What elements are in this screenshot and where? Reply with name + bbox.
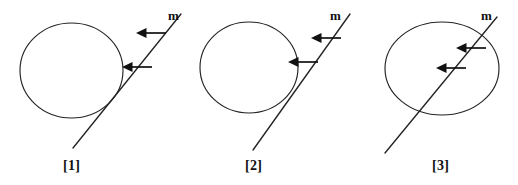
arrow-3-upper xyxy=(456,43,486,53)
line-label-m-1: m xyxy=(168,8,179,23)
figure-2-group: m [2] xyxy=(200,8,350,173)
figure-1-group: m [1] xyxy=(20,8,181,173)
arrow-head xyxy=(456,43,467,53)
arrow-head xyxy=(288,57,299,67)
circle-shape-1 xyxy=(20,23,123,118)
line-label-m-3: m xyxy=(481,8,492,23)
line-m-3 xyxy=(385,17,497,153)
arrow-head xyxy=(136,28,147,38)
line-label-m-2: m xyxy=(330,8,341,23)
arrow-3-lower xyxy=(436,63,466,73)
figure-3-group: m [3] xyxy=(385,8,499,173)
arrow-head xyxy=(436,63,447,73)
arrow-head xyxy=(311,33,322,43)
line-m-2 xyxy=(253,14,350,150)
arrow-1-lower xyxy=(122,62,152,72)
arrow-1-upper xyxy=(136,28,166,38)
figure-caption-2: [2] xyxy=(245,158,262,173)
circle-shape-2 xyxy=(200,22,298,113)
diagram-canvas: m [1] m [2] xyxy=(0,0,518,185)
figure-caption-3: [3] xyxy=(432,158,449,173)
figure-board: m [1] m [2] xyxy=(0,0,518,185)
line-m-1 xyxy=(73,14,181,148)
arrow-2-upper xyxy=(311,33,341,43)
figure-caption-1: [1] xyxy=(63,158,80,173)
